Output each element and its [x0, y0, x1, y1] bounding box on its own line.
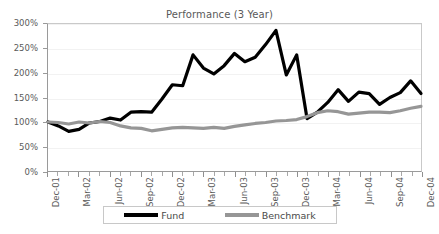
- y-axis-tick: [43, 122, 47, 123]
- x-axis-tick: [255, 172, 256, 176]
- y-axis-tick-label: 50%: [19, 142, 38, 152]
- performance-chart: Performance (3 Year) 0%50%100%150%200%25…: [0, 0, 439, 234]
- x-axis-tick: [339, 172, 340, 176]
- x-axis-tick: [99, 172, 100, 176]
- x-axis-tick: [120, 172, 121, 176]
- x-axis-tick: [422, 172, 423, 177]
- x-axis-tick: [380, 172, 381, 176]
- x-axis-tick: [214, 172, 215, 176]
- x-axis-tick-label: Mar-03: [207, 177, 217, 206]
- legend-item[interactable]: Benchmark: [225, 210, 316, 221]
- x-axis-tick-label: Dec-02: [176, 177, 186, 207]
- legend-label: Fund: [161, 210, 184, 221]
- y-axis-tick-label: 300%: [14, 18, 38, 28]
- x-axis-tick-label: Dec-04: [426, 177, 436, 207]
- plot-area: [47, 23, 422, 172]
- x-axis-tick-label: Dec-03: [301, 177, 311, 207]
- x-axis-tick: [276, 172, 277, 176]
- legend-item[interactable]: Fund: [124, 210, 184, 221]
- x-axis-tick: [287, 172, 288, 176]
- x-axis-tick: [130, 172, 131, 176]
- x-axis-tick: [318, 172, 319, 176]
- x-axis-tick-label: Dec-01: [51, 177, 61, 207]
- x-axis-tick: [245, 172, 246, 176]
- x-axis-tick-label: Jun-03: [239, 177, 249, 204]
- y-axis-tick-label: 250%: [14, 43, 38, 53]
- y-axis-tick-label: 0%: [25, 167, 39, 177]
- x-axis-tick: [151, 172, 152, 176]
- x-axis-tick-label: Mar-04: [332, 177, 342, 206]
- x-axis-tick: [224, 172, 225, 176]
- y-axis-tick: [43, 48, 47, 49]
- chart-legend: FundBenchmark: [103, 206, 337, 224]
- x-axis-tick: [370, 172, 371, 176]
- y-axis-labels: 0%50%100%150%200%250%300%: [0, 23, 43, 172]
- series-line-fund: [48, 30, 421, 131]
- y-axis-tick-label: 150%: [14, 93, 38, 103]
- y-axis-tick: [43, 172, 47, 173]
- legend-label: Benchmark: [262, 210, 316, 221]
- legend-swatch-benchmark: [225, 213, 259, 216]
- x-axis-tick-label: Sep-04: [395, 177, 405, 207]
- y-axis-tick: [43, 98, 47, 99]
- x-axis-tick: [193, 172, 194, 176]
- x-axis-labels: Dec-01Mar-02Jun-02Sep-02Dec-02Mar-03Jun-…: [47, 177, 422, 205]
- x-axis-tick: [68, 172, 69, 176]
- x-axis-tick-label: Sep-03: [270, 177, 280, 207]
- y-axis-tick: [43, 147, 47, 148]
- y-axis-tick: [43, 23, 47, 24]
- x-axis-tick-label: Sep-02: [145, 177, 155, 207]
- y-axis-tick-label: 200%: [14, 68, 38, 78]
- x-axis-tick-label: Mar-02: [82, 177, 92, 206]
- legend-swatch-fund: [124, 213, 158, 216]
- y-axis-tick-label: 100%: [14, 117, 38, 127]
- x-axis-tick: [89, 172, 90, 176]
- x-axis-tick-label: Jun-02: [114, 177, 124, 204]
- x-axis-tick: [307, 172, 308, 176]
- chart-title: Performance (3 Year): [0, 9, 439, 20]
- x-axis-tick-label: Jun-04: [364, 177, 374, 204]
- series-layer: [48, 24, 421, 171]
- y-axis-tick: [43, 73, 47, 74]
- x-axis-tick: [401, 172, 402, 176]
- x-axis-tick: [182, 172, 183, 176]
- x-axis-tick: [57, 172, 58, 176]
- x-axis-tick: [349, 172, 350, 176]
- x-axis-tick: [162, 172, 163, 176]
- x-axis-tick: [412, 172, 413, 176]
